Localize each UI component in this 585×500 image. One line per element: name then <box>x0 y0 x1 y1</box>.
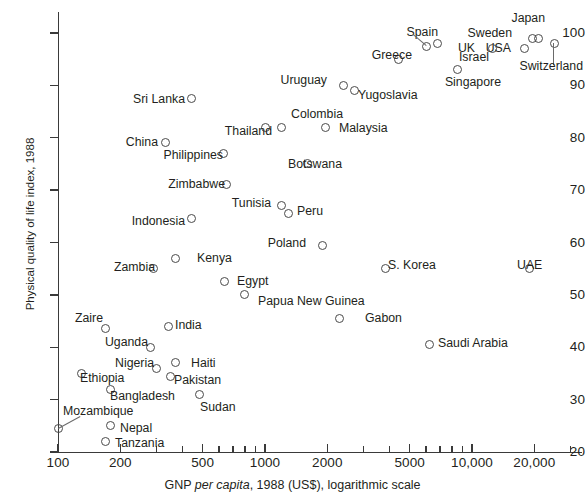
x-tick-label: 5000 <box>394 456 424 470</box>
data-point-marker[interactable] <box>101 437 110 446</box>
data-point-marker[interactable] <box>187 94 196 103</box>
data-point-marker[interactable] <box>240 290 249 299</box>
data-point-label: Spain <box>407 26 438 38</box>
data-point-label: Poland <box>268 237 306 249</box>
data-point-marker[interactable] <box>277 201 286 210</box>
data-point-marker[interactable] <box>171 254 180 263</box>
data-point-label: Papua New Guinea <box>258 295 365 307</box>
x-tick-label: 200 <box>109 456 132 470</box>
data-point-marker[interactable] <box>161 138 170 147</box>
x-tick-label: 1000 <box>250 456 280 470</box>
data-point-marker[interactable] <box>425 340 434 349</box>
x-tick-minor <box>218 446 219 453</box>
x-tick-minor <box>244 446 245 453</box>
data-point-label: Uruguay <box>281 74 327 86</box>
data-point-label: Zaire <box>75 312 103 324</box>
data-point-marker[interactable] <box>550 39 559 48</box>
x-tick-minor <box>255 446 256 453</box>
data-point-label: Kenya <box>197 252 232 264</box>
y-tick-label: 30 <box>541 393 585 407</box>
data-point-label: Malaysia <box>339 122 388 134</box>
x-tick <box>202 444 203 453</box>
data-point-label: Egypt <box>237 275 268 287</box>
data-point-label: Uganda <box>105 336 148 348</box>
x-tick-label: 10,000 <box>451 456 493 470</box>
y-axis-title: Physical quality of life index, 1988 <box>24 114 36 334</box>
y-tick-label: 70 <box>541 183 585 197</box>
data-point-marker[interactable] <box>433 39 442 48</box>
y-tick <box>50 399 59 400</box>
data-point-label: Mozambique <box>63 405 133 417</box>
y-tick <box>50 189 59 190</box>
y-tick <box>50 137 59 138</box>
data-point-label: Switzerland <box>519 60 583 72</box>
data-point-marker[interactable] <box>335 314 344 323</box>
x-axis-line <box>58 452 582 453</box>
data-point-marker[interactable] <box>520 44 529 53</box>
data-point-label: Sudan <box>200 401 236 413</box>
data-point-marker[interactable] <box>195 390 204 399</box>
data-point-marker[interactable] <box>321 123 330 132</box>
data-point-label: Ethiopia <box>80 372 124 384</box>
data-point-label: Indonesia <box>132 215 185 227</box>
x-tick <box>264 444 265 453</box>
data-point-label: Philippines <box>164 149 223 161</box>
data-point-label: Zimbabwe <box>168 178 225 190</box>
data-point-label: Singapore <box>445 76 501 88</box>
x-axis-title: GNP per capita, 1988 (US$), logarithmic … <box>0 478 585 492</box>
x-tick-minor <box>363 446 364 453</box>
data-point-label: India <box>175 319 202 331</box>
x-axis-title-italic: per capita <box>195 478 250 492</box>
y-tick-label: 80 <box>541 131 585 145</box>
x-tick-minor <box>425 446 426 453</box>
data-point-label: Sri Lanka <box>133 93 185 105</box>
x-tick <box>409 444 410 453</box>
data-point-label: Peru <box>297 205 323 217</box>
y-tick <box>50 32 59 33</box>
x-tick-label: 2000 <box>312 456 342 470</box>
data-point-marker[interactable] <box>164 322 173 331</box>
y-tick-label: 90 <box>541 78 585 92</box>
data-point-marker[interactable] <box>318 241 327 250</box>
data-point-label: Nigeria <box>115 357 154 369</box>
data-point-marker[interactable] <box>453 65 462 74</box>
data-point-label: Greece <box>372 49 412 61</box>
data-point-label: Haiti <box>191 357 216 369</box>
data-point-marker[interactable] <box>528 34 537 43</box>
y-tick <box>50 85 59 86</box>
data-point-marker[interactable] <box>187 214 196 223</box>
data-point-label: Thailand <box>225 125 272 137</box>
y-tick <box>50 294 59 295</box>
x-axis-title-post: , 1988 (US$), logarithmic scale <box>250 478 421 492</box>
x-tick <box>57 444 58 453</box>
data-point-marker[interactable] <box>220 277 229 286</box>
data-point-marker[interactable] <box>284 209 293 218</box>
y-tick-label: 60 <box>541 236 585 250</box>
data-point-marker[interactable] <box>101 324 110 333</box>
data-point-label: Japan <box>511 12 545 24</box>
y-tick <box>50 242 59 243</box>
data-point-marker[interactable] <box>171 358 180 367</box>
x-tick-minor <box>570 446 571 453</box>
y-tick-label: 100 <box>541 26 585 40</box>
x-tick-minor <box>462 446 463 453</box>
x-tick <box>534 444 535 453</box>
data-point-label: Israel <box>459 51 489 63</box>
data-point-label: Botswana <box>288 158 342 170</box>
x-tick-label: 20,000 <box>513 456 555 470</box>
data-point-marker[interactable] <box>106 421 115 430</box>
data-point-label: S. Korea <box>388 259 436 271</box>
scatter-chart: 2030405060708090100 10020050010002000500… <box>0 0 585 500</box>
x-tick <box>327 444 328 453</box>
y-tick-label: 40 <box>541 340 585 354</box>
x-tick-minor <box>389 446 390 453</box>
data-point-label: Saudi Arabia <box>438 337 508 349</box>
x-tick-minor <box>451 446 452 453</box>
data-point-marker[interactable] <box>277 123 286 132</box>
data-point-label: Gabon <box>365 312 402 324</box>
x-tick <box>471 444 472 453</box>
data-point-marker[interactable] <box>339 81 348 90</box>
data-point-label: Tunisia <box>232 197 271 209</box>
x-axis-title-pre: GNP <box>164 478 194 492</box>
x-tick-minor <box>182 446 183 453</box>
